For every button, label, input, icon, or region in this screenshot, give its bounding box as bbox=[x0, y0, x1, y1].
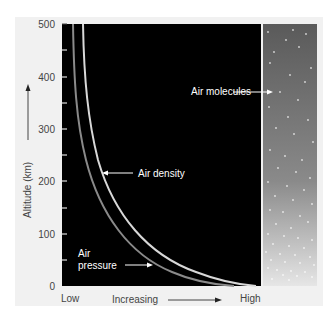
y-tick-500: 500 bbox=[38, 19, 55, 30]
right-arrow-icon bbox=[215, 298, 222, 303]
air-pressure-label-line2: pressure bbox=[78, 260, 117, 271]
altitude-chart: 500 400 300 200 100 0 Altitude (km) Air … bbox=[0, 0, 334, 329]
y-tick-300: 300 bbox=[38, 124, 55, 135]
y-tick-0: 0 bbox=[49, 281, 55, 292]
air-density-label: Air density bbox=[138, 168, 185, 179]
up-arrow-icon bbox=[26, 84, 31, 91]
x-label-high: High bbox=[240, 293, 261, 304]
x-axis-title: Increasing bbox=[112, 294, 158, 305]
y-tick-200: 200 bbox=[38, 176, 55, 187]
y-axis-title: Altitude (km) bbox=[22, 162, 33, 218]
air-pressure-label-line1: Air bbox=[78, 248, 91, 259]
y-tick-100: 100 bbox=[38, 229, 55, 240]
plot-area bbox=[62, 24, 261, 286]
x-label-low: Low bbox=[61, 293, 80, 304]
air-molecules-panel bbox=[263, 24, 317, 286]
y-tick-400: 400 bbox=[38, 72, 55, 83]
